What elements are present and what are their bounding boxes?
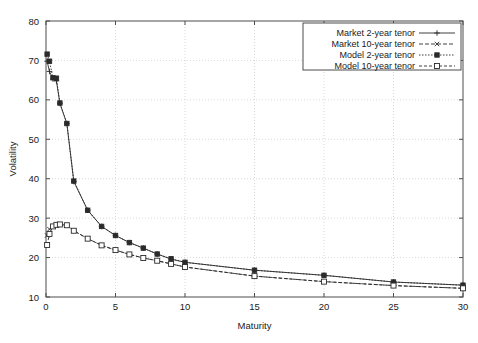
y-tick-label: 20 <box>28 252 39 263</box>
data-point-marker <box>113 248 118 253</box>
volatility-chart: 1020304050607080 051015202530 Maturity V… <box>0 0 478 343</box>
y-tick-label: 60 <box>28 94 39 105</box>
data-point-marker <box>71 228 76 233</box>
y-tick-label: 30 <box>28 213 39 224</box>
data-point-marker <box>322 279 327 284</box>
data-point-marker <box>47 231 52 236</box>
data-point-marker <box>435 53 439 57</box>
data-point-marker <box>47 59 51 63</box>
data-point-marker <box>391 283 396 288</box>
chart-container: 1020304050607080 051015202530 Maturity V… <box>0 0 478 343</box>
x-axis-title: Maturity <box>238 320 272 331</box>
legend-label: Market 10-year tenor <box>331 39 415 49</box>
data-point-marker <box>461 286 466 291</box>
data-point-marker <box>183 260 187 264</box>
data-point-marker <box>99 224 103 228</box>
data-point-marker <box>113 233 117 237</box>
data-point-marker <box>65 121 69 125</box>
y-tick-label: 70 <box>28 55 39 66</box>
data-point-marker <box>58 101 62 105</box>
data-point-marker <box>99 243 104 248</box>
data-point-marker <box>141 255 146 260</box>
data-point-marker <box>322 273 326 277</box>
y-tick-label: 50 <box>28 134 39 145</box>
data-point-marker <box>183 265 188 270</box>
data-point-marker <box>54 76 58 80</box>
data-point-marker <box>169 257 173 261</box>
data-point-marker <box>127 252 132 257</box>
data-point-marker <box>155 258 160 263</box>
data-point-marker <box>45 52 49 56</box>
legend-label: Model 10-year tenor <box>334 61 415 71</box>
legend-label: Market 2-year tenor <box>336 28 415 38</box>
data-point-marker <box>155 252 159 256</box>
x-tick-label: 20 <box>319 301 330 312</box>
data-point-marker <box>72 179 76 183</box>
data-point-marker <box>85 236 90 241</box>
legend-label: Model 2-year tenor <box>339 50 415 60</box>
x-tick-label: 5 <box>113 301 118 312</box>
data-point-marker <box>252 274 257 279</box>
data-point-marker <box>127 240 131 244</box>
x-tick-label: 15 <box>249 301 260 312</box>
data-point-marker <box>435 64 440 69</box>
data-point-marker <box>64 223 69 228</box>
x-tick-label: 30 <box>458 301 469 312</box>
y-tick-label: 80 <box>28 16 39 27</box>
y-tick-label: 40 <box>28 173 39 184</box>
data-point-marker <box>252 268 256 272</box>
data-point-marker <box>86 208 90 212</box>
x-tick-label: 0 <box>43 301 48 312</box>
data-point-marker <box>169 261 174 266</box>
legend: Market 2-year tenorMarket 10-year tenorM… <box>303 23 461 71</box>
data-point-marker <box>141 246 145 250</box>
y-tick-label: 10 <box>28 292 39 303</box>
x-tick-label: 25 <box>388 301 399 312</box>
data-point-marker <box>57 222 62 227</box>
y-axis-title: Volatility <box>7 141 18 176</box>
data-point-marker <box>45 242 50 247</box>
x-tick-label: 10 <box>180 301 191 312</box>
